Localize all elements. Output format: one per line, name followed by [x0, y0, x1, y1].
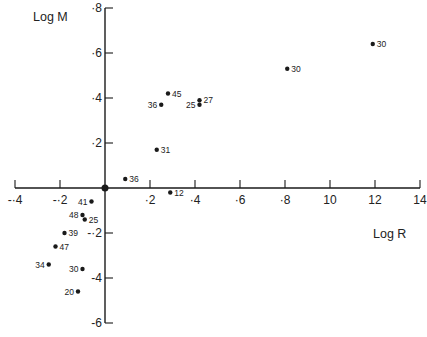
data-points: 3030453627253136124148253947343020 — [35, 39, 386, 297]
x-tick-label: 12 — [368, 193, 382, 207]
point-label: 48 — [69, 210, 79, 220]
data-point: 45 — [166, 89, 182, 99]
point-label: 25 — [186, 100, 196, 110]
x-tick-label: -·2 — [53, 193, 68, 207]
point-label: 39 — [69, 228, 79, 238]
y-tick-label: -6 — [91, 316, 102, 330]
y-axis-title: Log M — [33, 10, 68, 24]
axis-ticks: -·4-·2·2·4·6·8101214·8·6·4·2-·2-4-6 — [8, 1, 427, 330]
point-marker — [89, 199, 93, 203]
point-label: 41 — [78, 197, 88, 207]
x-axis-title: Log R — [373, 227, 406, 241]
data-point: 39 — [62, 228, 78, 238]
point-marker — [53, 244, 57, 248]
point-marker — [47, 262, 51, 266]
y-tick-label: ·8 — [91, 1, 102, 15]
x-tick-label: 10 — [323, 193, 337, 207]
y-tick-label: -4 — [91, 271, 102, 285]
point-marker — [285, 67, 289, 71]
data-point: 30 — [371, 39, 387, 49]
data-point: 25 — [83, 215, 99, 225]
point-label: 12 — [174, 188, 184, 198]
point-marker — [80, 267, 84, 271]
point-marker — [371, 42, 375, 46]
point-label: 45 — [172, 89, 182, 99]
point-marker — [62, 231, 66, 235]
axes — [15, 8, 420, 323]
point-marker — [197, 98, 201, 102]
point-marker — [159, 103, 163, 107]
point-label: 25 — [89, 215, 99, 225]
x-tick-label: -·4 — [8, 193, 23, 207]
data-point: 34 — [35, 260, 51, 270]
point-marker — [76, 289, 80, 293]
point-label: 20 — [65, 287, 75, 297]
data-point: 36 — [148, 100, 164, 110]
point-label: 34 — [35, 260, 45, 270]
x-tick-label: ·6 — [235, 193, 246, 207]
data-point: 12 — [168, 188, 184, 198]
point-label: 30 — [377, 39, 387, 49]
point-label: 47 — [60, 242, 70, 252]
point-marker — [83, 217, 87, 221]
scatter-chart: -·4-·2·2·4·6·8101214·8·6·4·2-·2-4-6 3030… — [0, 0, 427, 337]
point-label: 30 — [291, 64, 301, 74]
x-tick-label: ·2 — [145, 193, 156, 207]
point-label: 36 — [129, 174, 139, 184]
point-marker — [166, 91, 170, 95]
y-tick-label: -·2 — [87, 226, 102, 240]
data-point: 47 — [53, 242, 69, 252]
data-point: 48 — [69, 210, 85, 220]
point-label: 30 — [69, 264, 79, 274]
point-marker — [123, 177, 127, 181]
point-label: 36 — [148, 100, 158, 110]
data-point: 41 — [78, 197, 94, 207]
point-label: 31 — [161, 145, 171, 155]
point-marker — [168, 190, 172, 194]
point-marker — [155, 148, 159, 152]
x-tick-label: ·4 — [190, 193, 201, 207]
origin-marker — [102, 185, 109, 192]
y-tick-label: ·6 — [91, 46, 102, 60]
data-point: 20 — [65, 287, 81, 297]
y-tick-label: ·2 — [91, 136, 102, 150]
point-marker — [80, 213, 84, 217]
y-tick-label: ·4 — [91, 91, 102, 105]
data-point: 31 — [155, 145, 171, 155]
point-marker — [197, 103, 201, 107]
data-point: 30 — [285, 64, 301, 74]
data-point: 36 — [123, 174, 139, 184]
point-label: 27 — [204, 95, 214, 105]
x-tick-label: ·8 — [280, 193, 291, 207]
x-tick-label: 14 — [413, 193, 427, 207]
data-point: 30 — [69, 264, 85, 274]
